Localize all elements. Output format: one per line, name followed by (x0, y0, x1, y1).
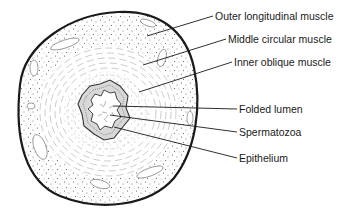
label-spermatozoa: Spermatozoa (239, 126, 301, 138)
label-folded-lumen: Folded lumen (239, 103, 303, 115)
label-outer-longitudinal-muscle: Outer longitudinal muscle (215, 10, 333, 22)
label-inner-oblique-muscle: Inner oblique muscle (234, 56, 331, 68)
label-middle-circular-muscle: Middle circular muscle (228, 33, 332, 45)
label-epithelium: Epithelium (239, 152, 288, 164)
